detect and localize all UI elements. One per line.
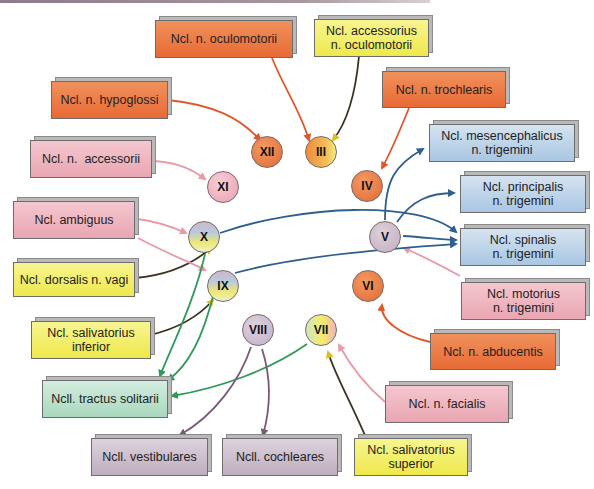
nerve-VIII-label: VIII (249, 323, 267, 337)
label-mesencephalicus: Ncl. mesencephalicusn. trigemini (441, 129, 563, 157)
edge-V-mesencephalicus (385, 149, 423, 220)
edge-VIII-vestibulares (180, 347, 251, 435)
edge-VIII-cochleares (262, 349, 269, 435)
nerve-IV-label: IV (361, 179, 372, 193)
box-ncl-accessorius-oculomotorii: Ncl. accessoriusn. oculomotorii (314, 19, 429, 57)
box-ncl-accessorii: Ncl. n. accessorii (30, 140, 152, 178)
label-accessorii: Ncl. n. accessorii (42, 152, 140, 166)
box-ncl-dorsalis-vagi: Ncl. dorsalis n. vagi (13, 262, 135, 297)
nerve-XII-label: XII (260, 145, 275, 159)
box-ncl-mesencephalicus: Ncl. mesencephalicusn. trigemini (429, 124, 575, 162)
label-motorius: Ncl. motoriusn. trigemini (487, 287, 560, 315)
box-ncl-oculomotorii: Ncl. n. oculomotorii (155, 20, 293, 58)
edge-accessorii-XI (155, 161, 205, 179)
edge-trochlearis-IV (382, 108, 409, 168)
box-ncl-salivatorius-inferior: Ncl. salivatoriusinferior (31, 321, 151, 359)
label-accessorius-oculomotorii: Ncl. accessoriusn. oculomotorii (326, 24, 417, 52)
edge-hypoglossi-XII (168, 100, 260, 140)
nerve-X: X (188, 221, 220, 253)
box-ncl-facialis: Ncl. n. facialis (385, 385, 509, 423)
label-cochleares: Ncll. cochleares (236, 450, 324, 464)
nerve-VI-label: VI (362, 279, 373, 293)
nerve-VII: VII (305, 314, 337, 346)
label-abducentis: Ncl. n. abducentis (443, 345, 542, 359)
box-ncl-trochlearis: Ncl. n. trochlearis (382, 71, 506, 108)
box-ncll-vestibulares: Ncll. vestibulares (91, 438, 208, 476)
edge-ambiguus-X (138, 219, 186, 233)
label-vestibulares: Ncll. vestibulares (102, 450, 196, 464)
label-dorsalis-vagi: Ncl. dorsalis n. vagi (20, 273, 128, 287)
edge-sal-inferior-IX (150, 300, 213, 335)
nerve-IX: IX (207, 270, 239, 302)
label-facialis: Ncl. n. facialis (408, 397, 485, 411)
nerve-III: III (305, 136, 337, 168)
box-ncl-spinalis: Ncl. spinalisn. trigemini (460, 228, 586, 266)
nerve-X-label: X (200, 230, 208, 244)
nerve-VIII: VIII (242, 314, 274, 346)
label-oculomotorii: Ncl. n. oculomotorii (171, 32, 277, 46)
edge-motorius-V (404, 248, 460, 276)
edge-sal-superior-VII (328, 352, 367, 440)
edge-IX-spinalis (235, 244, 456, 273)
nerve-IV: IV (351, 170, 383, 202)
label-principalis: Ncl. principalisn. trigemini (483, 180, 564, 208)
nerve-VI: VI (352, 270, 384, 302)
nerve-V-label: V (381, 230, 389, 244)
edge-acc-oculomotorii-III (333, 56, 359, 140)
box-ncll-tractus-solitarii: Ncll. tractus solitarii (42, 380, 168, 418)
box-ncl-salivatorius-superior: Ncl. salivatoriussuperior (354, 438, 468, 476)
box-ncll-cochleares: Ncll. cochleares (222, 438, 338, 476)
label-salivatorius-inferior: Ncl. salivatoriusinferior (47, 326, 135, 354)
box-ncl-motorius: Ncl. motoriusn. trigemini (461, 282, 586, 320)
box-ncl-principalis: Ncl. principalisn. trigemini (460, 175, 586, 213)
edge-V-spinalis (403, 236, 456, 240)
nerve-XII: XII (251, 136, 283, 168)
nerve-VII-label: VII (314, 323, 329, 337)
edge-X-spinalis (220, 210, 456, 233)
box-ncl-hypoglossi: Ncl. n. hypoglossi (51, 81, 168, 119)
label-spinalis: Ncl. spinalisn. trigemini (490, 233, 557, 261)
label-trochlearis: Ncl. n. trochlearis (396, 83, 493, 97)
nerve-XI-label: XI (217, 180, 228, 194)
nerve-XI: XI (207, 171, 239, 203)
edge-oculomotorii-III (272, 58, 309, 140)
nerve-IX-label: IX (217, 279, 228, 293)
label-hypoglossi: Ncl. n. hypoglossi (61, 93, 159, 107)
label-tractus-solitarii: Ncll. tractus solitarii (51, 392, 159, 406)
label-ambiguus: Ncl. ambiguus (34, 213, 113, 227)
box-ncl-ambiguus: Ncl. ambiguus (13, 201, 135, 239)
box-ncl-abducentis: Ncl. n. abducentis (430, 333, 556, 370)
nerve-III-label: III (316, 145, 326, 159)
nerve-V: V (369, 221, 401, 253)
label-salivatorius-superior: Ncl. salivatoriussuperior (367, 443, 455, 471)
edge-abducentis-VI (382, 305, 430, 342)
